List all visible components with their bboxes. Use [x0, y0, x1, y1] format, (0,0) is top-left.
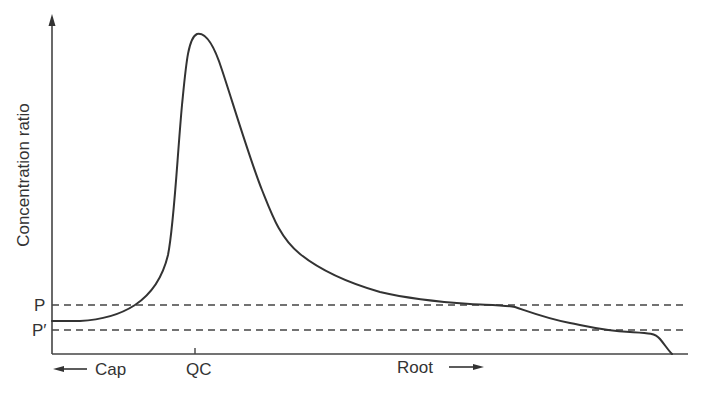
y-axis-arrow-icon: [49, 14, 56, 26]
left-arrow-icon: [53, 366, 64, 372]
p-label: P: [34, 297, 45, 314]
concentration-curve: [52, 34, 672, 354]
qc-label: QC: [186, 361, 212, 378]
concentration-ratio-diagram: Concentration ratio P P′ Cap QC Root: [0, 0, 714, 406]
plot-area: [0, 0, 714, 406]
right-arrow-icon: [473, 364, 484, 370]
root-label: Root: [397, 359, 433, 376]
y-axis-label: Concentration ratio: [14, 103, 34, 247]
p-prime-label: P′: [32, 322, 47, 339]
cap-label: Cap: [95, 361, 126, 378]
